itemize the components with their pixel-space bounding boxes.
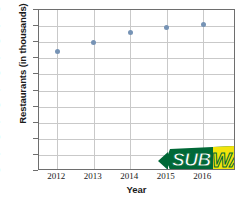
gridline-vertical [57, 10, 58, 169]
data-point [55, 49, 60, 54]
x-tick-label: 2014 [109, 172, 149, 181]
x-tick-label: 2012 [36, 172, 76, 181]
gridline-horizontal [39, 107, 234, 108]
data-point [128, 30, 133, 35]
gridline-horizontal [39, 155, 234, 156]
gridline-horizontal [39, 123, 234, 124]
data-point [91, 40, 96, 45]
plot-area: SUB WAY ® [38, 9, 235, 170]
svg-text:WAY: WAY [212, 149, 235, 170]
x-tick-label: 2013 [73, 172, 113, 181]
data-point [164, 25, 169, 30]
gridline-vertical [203, 10, 204, 169]
svg-text:SUB: SUB [172, 149, 211, 170]
x-axis-title: Year [38, 184, 235, 195]
gridline-horizontal [39, 58, 234, 59]
data-point [201, 22, 206, 27]
x-tick-label: 2015 [146, 172, 186, 181]
y-tick-mark [33, 170, 38, 171]
x-tick-label: 2016 [182, 172, 222, 181]
gridline-horizontal [39, 42, 234, 43]
gridline-horizontal [39, 91, 234, 92]
chart-screenshot: Restaurants (in thousands) 5045403530252… [0, 0, 243, 203]
gridline-vertical [167, 10, 168, 169]
y-axis-title: Restaurants (in thousands) [17, 0, 28, 144]
gridline-horizontal [39, 139, 234, 140]
gridline-horizontal [39, 74, 234, 75]
gridline-vertical [94, 10, 95, 169]
